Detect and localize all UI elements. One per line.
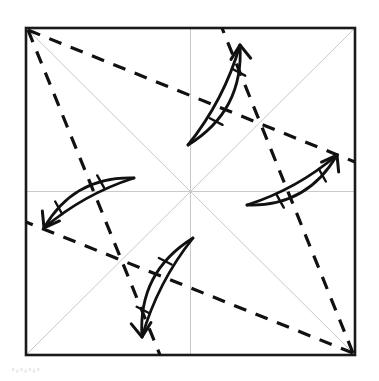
speckle-dot [25,370,27,373]
speckle-dot [33,370,35,373]
speckle-dot [37,368,39,371]
speckle-dot [29,368,31,371]
fold-diagram-canvas [0,0,379,381]
existing-crease-lines-group [26,28,355,355]
speckle-dot [20,368,22,371]
speckle-dot [16,370,18,373]
origami-fold-diagram [0,0,379,381]
speckle-dot [12,368,14,371]
